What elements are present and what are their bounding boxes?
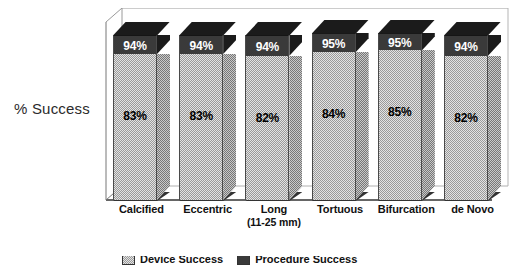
bar-front-face: 83%94%	[113, 35, 157, 200]
category-label: de Novo	[432, 203, 513, 215]
bar-segment-lower: 83%	[180, 54, 222, 200]
bar-side-face	[289, 35, 302, 200]
bar-value-label-upper: 95%	[379, 36, 421, 50]
bar-side-lower	[422, 50, 435, 200]
bar-side-lower	[488, 56, 501, 200]
bar-value-label-lower: 82%	[445, 111, 487, 125]
category-label-text: Eccentric	[183, 203, 232, 215]
legend-label: Procedure Success	[255, 256, 357, 265]
legend-swatch-procedure-success	[237, 256, 250, 265]
bar-value-label-lower: 85%	[379, 105, 421, 119]
legend-swatch-device-success	[122, 256, 135, 265]
bar-value-label-lower: 84%	[313, 107, 355, 121]
bar-side-lower	[223, 54, 236, 200]
bar-segment-lower: 85%	[379, 50, 421, 200]
bar-value-label-lower: 83%	[114, 109, 156, 123]
bar-side-upper	[356, 33, 369, 52]
category-label-text: de Novo	[451, 203, 494, 215]
bar-side-upper	[488, 35, 501, 56]
chart-3d-stacked-column: % Success 83%94%83%94%82%94%84%95%85%95%…	[0, 0, 520, 267]
bar-value-label-upper: 95%	[313, 37, 355, 51]
bar-column: 83%94%	[113, 35, 157, 200]
legend-label: Device Success	[140, 256, 223, 265]
bar-column: 84%95%	[312, 33, 356, 200]
bar-side-upper	[223, 35, 236, 54]
bar-segment-upper: 95%	[379, 33, 421, 51]
bar-side-lower	[157, 54, 170, 200]
bar-value-label-lower: 83%	[180, 109, 222, 123]
legend-item: Procedure Success	[237, 256, 357, 265]
bar-side-face	[488, 35, 501, 200]
bar-side-face	[223, 35, 236, 200]
bars-layer: 83%94%83%94%82%94%84%95%85%95%82%94%	[105, 8, 509, 201]
bar-segment-upper: 94%	[445, 35, 487, 56]
bar-front-face: 82%94%	[245, 35, 289, 200]
bar-top-cap	[312, 20, 369, 34]
bar-segment-lower: 82%	[246, 56, 288, 200]
bar-side-lower	[356, 52, 369, 200]
category-axis-labels: CalcifiedEccentricLong(11-25 mm)Tortuous…	[105, 203, 509, 237]
legend: Device Success Procedure Success	[0, 256, 520, 267]
bar-value-label-upper: 94%	[246, 40, 288, 54]
bar-segment-upper: 95%	[313, 33, 355, 52]
category-label-text: Bifurcation	[378, 203, 435, 215]
bar-front-face: 84%95%	[312, 33, 356, 200]
bar-top-cap	[245, 22, 302, 36]
bar-value-label-upper: 94%	[445, 40, 487, 54]
bar-top-cap	[444, 22, 501, 36]
category-label-text: Long	[261, 203, 287, 215]
y-axis-title: % Success	[14, 100, 106, 117]
bar-front-face: 85%95%	[378, 33, 422, 200]
category-sublabel-text: (11-25 mm)	[233, 216, 314, 228]
bar-column: 83%94%	[179, 35, 223, 200]
bar-side-upper	[422, 33, 435, 51]
legend-item: Device Success	[122, 256, 223, 265]
bar-side-face	[157, 35, 170, 200]
bar-column: 82%94%	[245, 35, 289, 200]
bar-segment-upper: 94%	[246, 35, 288, 56]
bar-top-cap	[179, 22, 236, 36]
legend-items: Device Success Procedure Success	[122, 256, 357, 265]
bar-top-cap	[378, 20, 435, 34]
bar-column: 82%94%	[444, 35, 488, 200]
bar-side-face	[422, 33, 435, 200]
bar-segment-upper: 94%	[114, 35, 156, 54]
bar-value-label-upper: 94%	[180, 39, 222, 53]
bar-front-face: 82%94%	[444, 35, 488, 200]
bar-segment-lower: 84%	[313, 52, 355, 200]
bar-side-upper	[289, 35, 302, 56]
bar-column: 85%95%	[378, 33, 422, 200]
bar-top-cap	[113, 22, 170, 36]
bar-value-label-lower: 82%	[246, 111, 288, 125]
bar-front-face: 83%94%	[179, 35, 223, 200]
bar-segment-lower: 83%	[114, 54, 156, 200]
category-label-text: Tortuous	[317, 203, 363, 215]
bar-side-lower	[289, 56, 302, 200]
bar-segment-upper: 94%	[180, 35, 222, 54]
category-label-text: Calcified	[119, 203, 164, 215]
bar-segment-lower: 82%	[445, 56, 487, 200]
bar-side-upper	[157, 35, 170, 54]
bar-value-label-upper: 94%	[114, 39, 156, 53]
bar-side-face	[356, 33, 369, 200]
